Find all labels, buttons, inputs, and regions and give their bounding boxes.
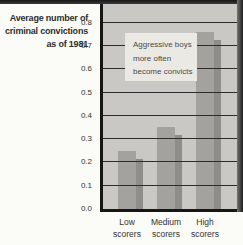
figure-right-border — [237, 0, 243, 212]
y-tick-label-0.3: 0.3 — [64, 134, 92, 144]
y-tick-label-0.2: 0.2 — [64, 157, 92, 167]
annotation-line-1: Aggressive boys — [133, 38, 197, 52]
y-tick-label-0.4: 0.4 — [64, 111, 92, 121]
y-tick-label-0.7: 0.7 — [64, 41, 92, 51]
bar-shadow-high-scorers — [214, 40, 221, 209]
annotation-line-3: become convicts — [133, 65, 197, 79]
y-tick-label-0.6: 0.6 — [64, 64, 92, 74]
bar-high-scorers — [196, 32, 214, 209]
gridline-0.5 — [103, 92, 237, 93]
annotation-line-2: more often — [133, 52, 197, 66]
x-axis-labels: LowscorersMediumscorersHighscorers — [103, 216, 237, 244]
gridline-0.8 — [103, 22, 237, 23]
gridline-0.4 — [103, 115, 237, 116]
bar-low-scorers — [118, 151, 136, 209]
plot-area: Aggressive boys more often become convic… — [100, 4, 237, 212]
y-tick-label-0.5: 0.5 — [64, 88, 92, 98]
criminal-convictions-bar-chart: Average number of criminal convictions a… — [0, 0, 243, 245]
x-axis-label-high-scorers: Highscorers — [175, 216, 235, 240]
gridline-0.3 — [103, 138, 237, 139]
y-tick-label-0.8: 0.8 — [64, 18, 92, 28]
y-axis-tick-labels: 0.00.10.20.30.40.50.60.70.8 — [64, 4, 92, 209]
bar-shadow-medium-scorers — [175, 135, 182, 209]
y-tick-label-0.0: 0.0 — [64, 204, 92, 214]
gridline-0.1 — [103, 185, 237, 186]
bar-medium-scorers — [157, 127, 175, 209]
y-tick-label-0.1: 0.1 — [64, 181, 92, 191]
gridline-0.2 — [103, 161, 237, 162]
annotation-box: Aggressive boys more often become convic… — [125, 33, 197, 81]
